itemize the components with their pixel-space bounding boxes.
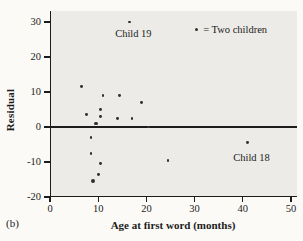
x-tick-mark	[290, 197, 291, 202]
point-label: Child 18	[233, 152, 269, 163]
plot-area	[51, 11, 297, 196]
x-tick-label: 20	[134, 204, 158, 214]
y-tick-mark	[44, 56, 50, 57]
x-tick-mark	[98, 197, 99, 202]
x-tick-mark	[194, 197, 195, 202]
x-tick-label: 10	[86, 204, 110, 214]
x-axis	[50, 196, 298, 197]
x-tick-label: 50	[279, 204, 303, 214]
legend: = Two children	[195, 24, 267, 35]
y-tick-label: 30	[11, 17, 41, 27]
y-tick-mark	[44, 126, 50, 127]
data-point	[85, 113, 88, 116]
data-point-two-children	[94, 122, 98, 126]
data-point	[116, 117, 119, 120]
x-tick-mark	[49, 197, 50, 202]
x-tick-label: 30	[183, 204, 207, 214]
x-axis-title: Age at first word (months)	[73, 219, 273, 231]
y-tick-mark	[44, 91, 50, 92]
data-point	[99, 115, 102, 118]
x-tick-label: 0	[38, 204, 62, 214]
data-point	[90, 152, 93, 155]
y-tick-mark	[44, 21, 50, 22]
point-label: Child 19	[115, 27, 151, 38]
x-tick-mark	[242, 197, 243, 202]
data-point	[97, 173, 100, 176]
data-point	[131, 117, 134, 120]
residual-scatter-figure: 3020100-10-2001020304050 Child 19Child 1…	[0, 0, 303, 241]
data-point	[99, 108, 102, 111]
two-children-dot-icon	[195, 28, 198, 31]
y-axis-title: Residual	[4, 60, 16, 160]
x-tick-mark	[146, 197, 147, 202]
y-tick-label: -20	[11, 192, 41, 202]
data-point	[80, 85, 83, 88]
y-axis	[50, 11, 51, 197]
figure-part-label: (b)	[6, 217, 19, 229]
legend-label: = Two children	[203, 24, 267, 35]
x-tick-label: 40	[231, 204, 255, 214]
y-tick-mark	[44, 161, 50, 162]
zero-reference-line	[51, 126, 297, 127]
data-point	[140, 101, 143, 104]
